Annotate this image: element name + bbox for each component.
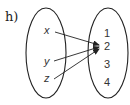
- mapping-diagram: x y z 1 2 3 4: [0, 0, 130, 105]
- codomain-element-4: 4: [104, 76, 110, 88]
- domain-element-z: z: [43, 72, 50, 84]
- codomain-element-3: 3: [104, 58, 110, 70]
- domain-element-x: x: [43, 24, 50, 36]
- arrow-x-to-2: [55, 32, 99, 45]
- domain-element-y: y: [43, 55, 51, 67]
- domain-ellipse: [26, 8, 66, 98]
- arrow-z-to-2: [54, 49, 99, 79]
- codomain-element-1: 1: [104, 27, 110, 39]
- codomain-element-2: 2: [104, 40, 110, 52]
